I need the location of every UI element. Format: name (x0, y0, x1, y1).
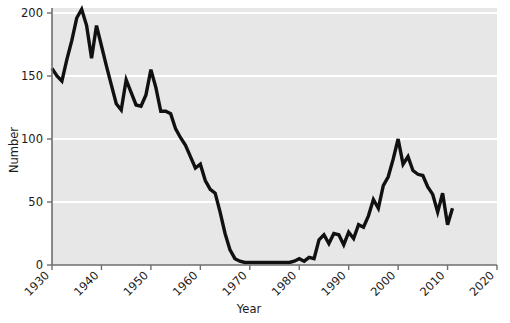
x-tick-label-1930: 1930 (22, 268, 53, 299)
x-tick-label-1940: 1940 (71, 268, 102, 299)
x-tick-label-1970: 1970 (219, 268, 250, 299)
y-tick-label-100: 100 (21, 132, 43, 146)
y-tick-label-150: 150 (21, 69, 43, 83)
y-tick-label-50: 50 (28, 195, 43, 209)
chart-figure: 1930194019501960197019801990200020102020… (0, 0, 510, 323)
y-axis-title: Number (7, 127, 21, 173)
line-chart: 1930194019501960197019801990200020102020… (0, 0, 510, 323)
x-tick-label-2010: 2010 (417, 268, 448, 299)
x-tick-label-1990: 1990 (318, 268, 349, 299)
x-tick-label-2020: 2020 (467, 268, 498, 299)
y-tick-label-200: 200 (21, 6, 43, 20)
x-axis-tick-labels: 1930194019501960197019801990200020102020 (22, 268, 498, 299)
x-tick-label-2000: 2000 (368, 268, 399, 299)
x-axis-title: Year (236, 302, 262, 316)
y-tick-label-0: 0 (36, 258, 43, 272)
x-tick-label-1960: 1960 (170, 268, 201, 299)
x-tick-label-1950: 1950 (120, 268, 151, 299)
plot-background (52, 8, 497, 265)
y-axis-tick-labels: 050100150200 (21, 6, 43, 272)
x-tick-label-1980: 1980 (269, 268, 300, 299)
